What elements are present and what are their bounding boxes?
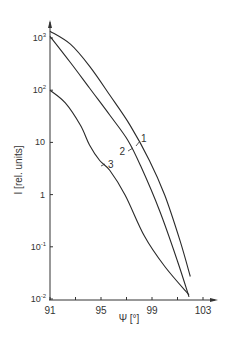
y-tick-label: 1 [40, 190, 45, 200]
curve-label-2: 2 [119, 146, 125, 157]
y-tick-label: 103 [33, 32, 47, 43]
curves [50, 31, 190, 297]
curve-label-3: 3 [108, 159, 114, 170]
chart-svg: 91959910310-210-1110102103 123 I [rel. u… [0, 0, 226, 343]
y-axis-label: I [rel. units] [13, 145, 24, 194]
x-axis-arrow-icon [210, 298, 218, 302]
curve-3 [50, 90, 189, 295]
x-tick-label: 103 [195, 305, 212, 316]
y-tick-label: 10 [35, 137, 45, 147]
curve-label-leader [128, 148, 133, 151]
y-axis-arrow-icon [48, 20, 52, 28]
x-axis-label: Ψ [°] [119, 313, 140, 324]
axes: 91959910310-210-1110102103 [31, 20, 218, 316]
y-tick-label: 102 [33, 84, 47, 95]
y-tick-label: 10-1 [31, 241, 47, 252]
x-tick-label: 91 [44, 305, 56, 316]
y-tick-label: 10-2 [31, 293, 47, 304]
curve-2 [50, 36, 189, 297]
chart: 91959910310-210-1110102103 123 I [rel. u… [0, 0, 226, 343]
x-tick-label: 99 [146, 305, 158, 316]
curve-label-1: 1 [141, 133, 147, 144]
curve-label-leader [136, 141, 140, 146]
x-tick-label: 95 [95, 305, 107, 316]
